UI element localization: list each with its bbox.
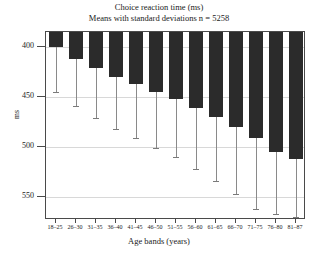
x-axis-tick <box>255 219 256 223</box>
x-axis-tick <box>175 219 176 223</box>
error-bar-cap <box>233 194 239 195</box>
error-bar-line <box>76 59 77 106</box>
bar[interactable] <box>269 32 283 152</box>
error-bar-cap <box>153 148 159 149</box>
bar[interactable] <box>49 32 63 47</box>
error-bar-cap <box>213 181 219 182</box>
error-bar-cap <box>293 217 299 218</box>
error-bar-line <box>136 84 137 138</box>
error-bar-line <box>216 117 217 181</box>
bar-slot <box>86 32 106 218</box>
error-bar-line <box>176 99 177 157</box>
error-bar-line <box>276 152 277 214</box>
x-axis-tick <box>295 219 296 223</box>
plot-area <box>45 31 305 219</box>
y-axis-tick <box>37 146 45 147</box>
x-axis-tick <box>235 219 236 223</box>
error-bar-line <box>256 138 257 209</box>
error-bar-line <box>56 47 57 92</box>
bar[interactable] <box>69 32 83 59</box>
y-axis-tick-label: 400 <box>10 42 34 50</box>
error-bar-line <box>196 108 197 169</box>
x-axis-label: Age bands (years) <box>0 236 318 246</box>
error-bar-cap <box>273 214 279 215</box>
error-bar-cap <box>133 138 139 139</box>
error-bar-cap <box>93 118 99 119</box>
bar[interactable] <box>129 32 143 84</box>
x-axis-tick <box>75 219 76 223</box>
error-bar-line <box>116 77 117 129</box>
error-bar-line <box>236 127 237 194</box>
x-axis-tick <box>195 219 196 223</box>
bar[interactable] <box>189 32 203 108</box>
x-axis-tick <box>95 219 96 223</box>
x-axis-tick <box>115 219 116 223</box>
chart-title: Choice reaction time (ms) <box>0 2 318 13</box>
error-bar-cap <box>113 129 119 130</box>
y-axis-tick <box>37 196 45 197</box>
x-axis-tick <box>135 219 136 223</box>
y-axis-label: ms <box>12 103 21 127</box>
bar[interactable] <box>229 32 243 127</box>
bar[interactable] <box>109 32 123 77</box>
error-bar-cap <box>193 169 199 170</box>
x-axis-tick <box>155 219 156 223</box>
x-axis-tick <box>215 219 216 223</box>
chart-page: Choice reaction time (ms) Means with sta… <box>0 0 318 258</box>
y-axis-tick <box>37 46 45 47</box>
bar[interactable] <box>89 32 103 68</box>
y-axis-tick-label: 450 <box>10 92 34 100</box>
error-bar-cap <box>173 157 179 158</box>
bar[interactable] <box>209 32 223 117</box>
error-bar-cap <box>253 209 259 210</box>
error-bar-line <box>96 68 97 118</box>
bar[interactable] <box>149 32 163 92</box>
error-bar-cap <box>73 106 79 107</box>
bar[interactable] <box>169 32 183 99</box>
error-bar-line <box>296 159 297 217</box>
bar[interactable] <box>289 32 303 159</box>
plot-inner <box>46 32 304 218</box>
x-axis-tick-label: 81–87 <box>281 224 309 231</box>
chart-subtitle: Means with standard deviations n = 5258 <box>0 13 318 24</box>
y-axis-tick-label: 500 <box>10 142 34 150</box>
error-bar-line <box>156 92 157 148</box>
error-bar-cap <box>53 92 59 93</box>
x-axis-tick <box>275 219 276 223</box>
chart-title-block: Choice reaction time (ms) Means with sta… <box>0 2 318 24</box>
bar[interactable] <box>249 32 263 138</box>
y-axis-tick <box>37 96 45 97</box>
y-axis-tick-label: 550 <box>10 192 34 200</box>
x-axis-tick <box>55 219 56 223</box>
